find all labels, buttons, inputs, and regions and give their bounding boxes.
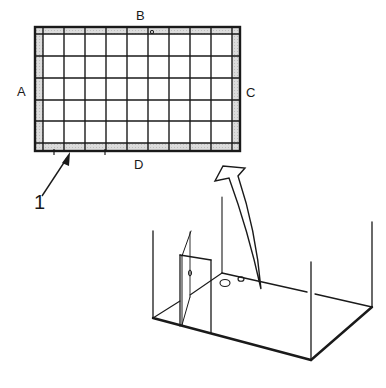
floor-back-edge <box>222 273 307 292</box>
floor-left-edge <box>190 273 222 295</box>
edge-label-bottom: D <box>134 158 143 171</box>
diagram-canvas <box>0 0 386 388</box>
callout-arrow <box>42 152 70 196</box>
edge-label-top: B <box>136 9 145 22</box>
door-panel <box>180 231 211 333</box>
edge-label-left: A <box>17 85 26 98</box>
open-box <box>153 197 372 360</box>
grid-panel <box>35 27 240 155</box>
floor-back-edge <box>315 294 372 307</box>
floor-right-edge <box>311 307 372 360</box>
floor-front-edge <box>153 318 311 360</box>
edge-label-right: C <box>246 86 255 99</box>
floor-hole-large <box>220 280 230 287</box>
callout-number-1: 1 <box>34 192 45 212</box>
floor-left-edge <box>153 301 180 318</box>
grid-interior <box>43 34 232 143</box>
